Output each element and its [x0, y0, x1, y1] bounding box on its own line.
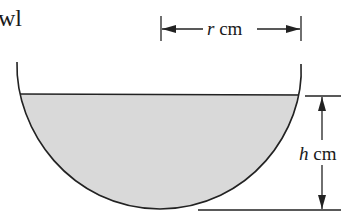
height-unit: cm	[309, 143, 337, 164]
radius-unit: cm	[214, 18, 242, 39]
right-arrow-icon	[286, 25, 300, 33]
left-arrow-icon	[162, 25, 176, 33]
down-arrow-icon	[318, 195, 326, 209]
height-var: h	[299, 143, 309, 164]
bowl-diagram: wl r cm h cm	[0, 0, 347, 213]
svg-text:r cm: r cm	[207, 18, 243, 39]
water-surface-line	[20, 94, 298, 95]
svg-text:h cm: h cm	[299, 143, 337, 164]
up-arrow-icon	[318, 97, 326, 111]
radius-dimension: r cm	[161, 16, 301, 41]
corner-text: wl	[0, 5, 22, 31]
water-region	[21, 94, 298, 209]
